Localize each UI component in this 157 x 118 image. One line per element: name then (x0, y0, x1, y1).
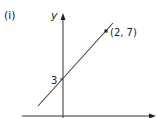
y-axis-label: y (50, 9, 58, 22)
y-intercept-label: 3 (51, 75, 57, 86)
labels-layer: (i) y 3 (2, 7) (0, 0, 157, 118)
figure-label: (i) (4, 9, 16, 22)
point-label: (2, 7) (110, 27, 137, 38)
